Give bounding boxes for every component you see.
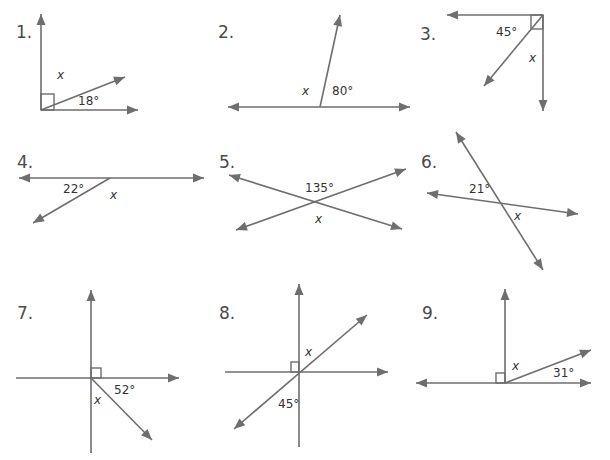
problem-number: 1.	[16, 22, 32, 42]
angle-measure-label: 80°	[332, 84, 353, 98]
arrowhead-icon	[127, 106, 138, 115]
arrowhead-icon	[579, 350, 591, 358]
arrowhead-icon	[19, 174, 30, 183]
arrowhead-icon	[390, 221, 402, 230]
unknown-angle-label: x	[514, 209, 521, 223]
angle-measure-label: 52°	[114, 383, 135, 397]
ray-line	[456, 132, 543, 270]
problem-number: 7.	[17, 303, 33, 323]
arrowhead-icon	[333, 15, 342, 27]
arrowhead-icon	[193, 174, 204, 183]
angle-measure-label: 18°	[78, 94, 99, 108]
arrowhead-icon	[580, 379, 591, 388]
ray-line	[427, 193, 578, 214]
arrowhead-icon	[295, 284, 304, 295]
arrowhead-icon	[501, 289, 510, 300]
arrowhead-icon	[447, 11, 458, 20]
arrowhead-icon	[168, 374, 179, 383]
angle-measure-label: 31°	[553, 366, 574, 380]
problem-number: 5.	[219, 152, 235, 172]
problem-number: 3.	[420, 24, 436, 44]
angle-measure-label: 45°	[278, 397, 299, 411]
arrowhead-icon	[427, 190, 439, 199]
unknown-angle-label: x	[315, 212, 322, 226]
problem-number: 4.	[17, 152, 33, 172]
angle-measure-label: 22°	[63, 182, 84, 196]
arrowhead-icon	[37, 14, 46, 25]
angle-diagrams-canvas	[0, 0, 610, 460]
unknown-angle-label: x	[305, 345, 312, 359]
figure-8	[225, 284, 388, 447]
arrowhead-icon	[399, 103, 410, 112]
arrowhead-icon	[228, 103, 239, 112]
unknown-angle-label: x	[94, 393, 101, 407]
problem-number: 8.	[219, 303, 235, 323]
unknown-angle-label: x	[512, 359, 519, 373]
right-angle-marker-icon	[291, 362, 299, 372]
angle-measure-label: 21°	[469, 182, 490, 196]
arrowhead-icon	[229, 174, 241, 183]
figure-6	[427, 132, 578, 270]
right-angle-marker-icon	[91, 368, 101, 378]
arrowhead-icon	[416, 379, 427, 388]
unknown-angle-label: x	[110, 188, 117, 202]
arrowhead-icon	[533, 258, 543, 270]
unknown-angle-label: x	[529, 51, 536, 65]
right-angle-marker-icon	[496, 373, 505, 383]
arrowhead-icon	[377, 368, 388, 377]
figure-2	[228, 15, 410, 112]
arrowhead-icon	[113, 77, 125, 85]
angle-measure-label: 45°	[496, 25, 517, 39]
problem-number: 2.	[218, 22, 234, 42]
arrowhead-icon	[566, 208, 578, 217]
unknown-angle-label: x	[57, 68, 64, 82]
problem-number: 6.	[421, 152, 437, 172]
arrowhead-icon	[236, 222, 248, 230]
arrowhead-icon	[33, 214, 45, 223]
angle-measure-label: 135°	[305, 181, 334, 195]
arrowhead-icon	[456, 132, 466, 144]
arrowhead-icon	[87, 290, 96, 301]
unknown-angle-label: x	[302, 84, 309, 98]
arrowhead-icon	[539, 100, 548, 111]
figure-7	[16, 290, 179, 453]
arrowhead-icon	[394, 168, 406, 176]
problem-number: 9.	[422, 303, 438, 323]
